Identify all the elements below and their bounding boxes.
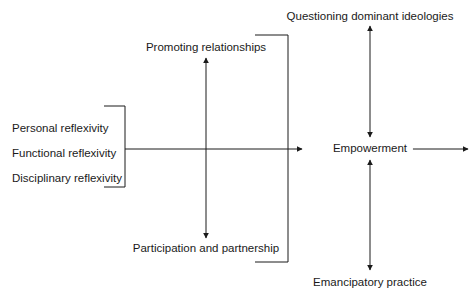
label-promoting-relationships: Promoting relationships <box>146 42 266 54</box>
label-emancipatory-practice: Emancipatory practice <box>313 277 427 289</box>
label-empowerment: Empowerment <box>327 143 413 155</box>
label-questioning-dominant-ideologies: Questioning dominant ideologies <box>287 11 454 23</box>
label-disciplinary-reflexivity: Disciplinary reflexivity <box>12 173 122 185</box>
diagram-canvas: Personal reflexivity Functional reflexiv… <box>0 0 472 296</box>
label-personal-reflexivity: Personal reflexivity <box>12 123 109 135</box>
label-functional-reflexivity: Functional reflexivity <box>12 148 116 160</box>
label-participation-and-partnership: Participation and partnership <box>133 243 279 255</box>
